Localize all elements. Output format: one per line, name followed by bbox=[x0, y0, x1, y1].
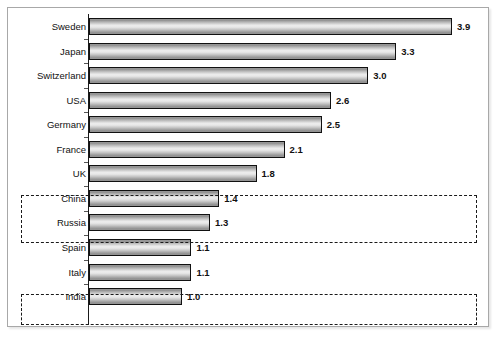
bar-row: China1.4 bbox=[0, 190, 504, 207]
bar-switzerland bbox=[89, 67, 368, 84]
axis-tick bbox=[84, 39, 88, 40]
bar-row: Russia1.3 bbox=[0, 214, 504, 231]
bar-uk bbox=[89, 165, 257, 182]
category-label-china: China bbox=[4, 190, 86, 207]
bar-china bbox=[89, 190, 219, 207]
axis-tick bbox=[84, 112, 88, 113]
axis-tick bbox=[84, 260, 88, 261]
bar-russia bbox=[89, 214, 210, 231]
bar-usa bbox=[89, 92, 331, 109]
bar-germany bbox=[89, 116, 322, 133]
bar-spain bbox=[89, 239, 191, 256]
category-label-russia: Russia bbox=[4, 214, 86, 231]
bar-france bbox=[89, 141, 285, 158]
bar-value-russia: 1.3 bbox=[215, 214, 228, 231]
bar-row: USA2.6 bbox=[0, 92, 504, 109]
axis-tick bbox=[84, 88, 88, 89]
category-label-usa: USA bbox=[4, 92, 86, 109]
category-label-switzerland: Switzerland bbox=[4, 67, 86, 84]
bar-row: France2.1 bbox=[0, 141, 504, 158]
bar-value-france: 2.1 bbox=[290, 141, 303, 158]
bar-value-spain: 1.1 bbox=[196, 239, 209, 256]
axis-tick bbox=[84, 162, 88, 163]
category-label-uk: UK bbox=[4, 165, 86, 182]
axis-tick bbox=[84, 137, 88, 138]
bar-india bbox=[89, 288, 182, 305]
bar-row: India1.0 bbox=[0, 288, 504, 305]
category-label-italy: Italy bbox=[4, 264, 86, 281]
axis-tick bbox=[84, 211, 88, 212]
category-label-spain: Spain bbox=[4, 239, 86, 256]
axis-tick bbox=[84, 284, 88, 285]
axis-tick bbox=[84, 235, 88, 236]
category-label-germany: Germany bbox=[4, 116, 86, 133]
bar-row: Sweden3.9 bbox=[0, 18, 504, 35]
axis-tick bbox=[84, 186, 88, 187]
bar-value-sweden: 3.9 bbox=[457, 18, 470, 35]
bar-japan bbox=[89, 43, 396, 60]
bar-row: Japan3.3 bbox=[0, 43, 504, 60]
bar-row: Switzerland3.0 bbox=[0, 67, 504, 84]
bar-row: Spain1.1 bbox=[0, 239, 504, 256]
bar-row: UK1.8 bbox=[0, 165, 504, 182]
bar-row: Germany2.5 bbox=[0, 116, 504, 133]
category-label-japan: Japan bbox=[4, 43, 86, 60]
bar-chart: Sweden3.9Japan3.3Switzerland3.0USA2.6Ger… bbox=[0, 0, 504, 340]
bar-value-switzerland: 3.0 bbox=[373, 67, 386, 84]
plot-area: Sweden3.9Japan3.3Switzerland3.0USA2.6Ger… bbox=[0, 0, 504, 340]
bar-value-china: 1.4 bbox=[224, 190, 237, 207]
bar-value-uk: 1.8 bbox=[262, 165, 275, 182]
bar-sweden bbox=[89, 18, 452, 35]
category-label-india: India bbox=[4, 288, 86, 305]
bar-italy bbox=[89, 264, 191, 281]
bar-value-india: 1.0 bbox=[187, 288, 200, 305]
category-label-france: France bbox=[4, 141, 86, 158]
bar-value-italy: 1.1 bbox=[196, 264, 209, 281]
bar-value-usa: 2.6 bbox=[336, 92, 349, 109]
bar-row: Italy1.1 bbox=[0, 264, 504, 281]
axis-tick bbox=[84, 63, 88, 64]
bar-value-japan: 3.3 bbox=[401, 43, 414, 60]
bar-value-germany: 2.5 bbox=[327, 116, 340, 133]
category-label-sweden: Sweden bbox=[4, 18, 86, 35]
